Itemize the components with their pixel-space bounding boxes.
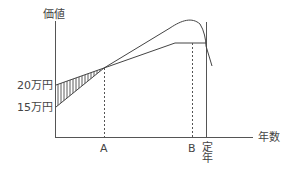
x-axis-label: 年数 [258, 132, 280, 143]
tick-15man: 15万円 [17, 102, 53, 113]
tick-20man: 20万円 [17, 80, 53, 91]
mark-a: A [100, 143, 108, 154]
mark-b: B [188, 143, 196, 154]
mark-retirement: 定年 [201, 141, 212, 163]
contribution-curve [56, 20, 212, 107]
wage-line [56, 43, 206, 85]
y-axis-label: 価値 [43, 9, 65, 20]
